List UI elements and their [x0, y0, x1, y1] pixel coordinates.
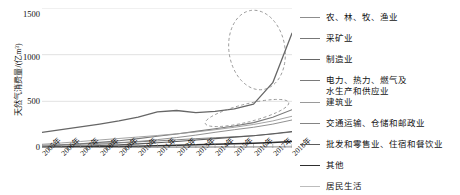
legend-label: 电力、热力、燃气及 水生产和供应业 [326, 75, 407, 96]
series-lines [42, 33, 292, 148]
legend-label: 农、林、牧、渔业 [326, 12, 398, 23]
y-tick-1000: 1000 [6, 53, 40, 62]
legend-item[interactable]: 居民生活 [300, 181, 362, 192]
legend-item[interactable]: 采矿业 [300, 33, 353, 44]
legend-item[interactable]: 交通运输、仓储和邮政业 [300, 118, 425, 129]
legend-label: 建筑业 [326, 97, 353, 108]
y-tick-1500: 1500 [6, 10, 40, 19]
legend-item[interactable]: 电力、热力、燃气及 水生产和供应业 [300, 75, 407, 96]
y-axis-title: 天然气消费量/(亿m³) [12, 10, 23, 150]
ellipse-transport-retail [203, 94, 291, 132]
legend-swatch [300, 80, 320, 81]
series-line [42, 33, 292, 132]
line-chart: 天然气消费量/(亿m³) 1500 1000 500 0 2005年2006年2… [0, 0, 460, 195]
legend-swatch [300, 186, 320, 187]
x-axis: 2005年2006年2007年2008年2009年2010年2011年2012年… [42, 150, 294, 195]
plot-area [42, 8, 292, 148]
legend-label: 采矿业 [326, 33, 353, 44]
y-tick-500: 500 [6, 97, 40, 106]
y-tick-0: 0 [6, 143, 40, 152]
y-axis: 天然气消费量/(亿m³) 1500 1000 500 0 [2, 0, 40, 195]
legend-label: 其他 [326, 160, 344, 171]
legend-swatch [300, 102, 320, 103]
legend-item[interactable]: 农、林、牧、渔业 [300, 12, 398, 23]
legend-label: 制造业 [326, 54, 353, 65]
legend-label: 批发和零售业、住宿和餐饮业 [326, 139, 443, 150]
legend-item[interactable]: 批发和零售业、住宿和餐饮业 [300, 139, 443, 150]
legend-item[interactable]: 建筑业 [300, 97, 353, 108]
legend-label: 交通运输、仓储和邮政业 [326, 118, 425, 129]
legend-item[interactable]: 制造业 [300, 54, 353, 65]
ellipse-manufacturing-surge [223, 8, 291, 94]
legend-swatch [300, 17, 320, 18]
legend-swatch [300, 123, 320, 124]
legend-swatch [300, 165, 320, 166]
legend-label: 居民生活 [326, 181, 362, 192]
chart-legend: 农、林、牧、渔业采矿业制造业电力、热力、燃气及 水生产和供应业建筑业交通运输、仓… [300, 4, 460, 194]
legend-swatch [300, 59, 320, 60]
legend-item[interactable]: 其他 [300, 160, 344, 171]
legend-swatch [300, 144, 320, 145]
legend-swatch [300, 38, 320, 39]
gridlines [42, 8, 292, 101]
